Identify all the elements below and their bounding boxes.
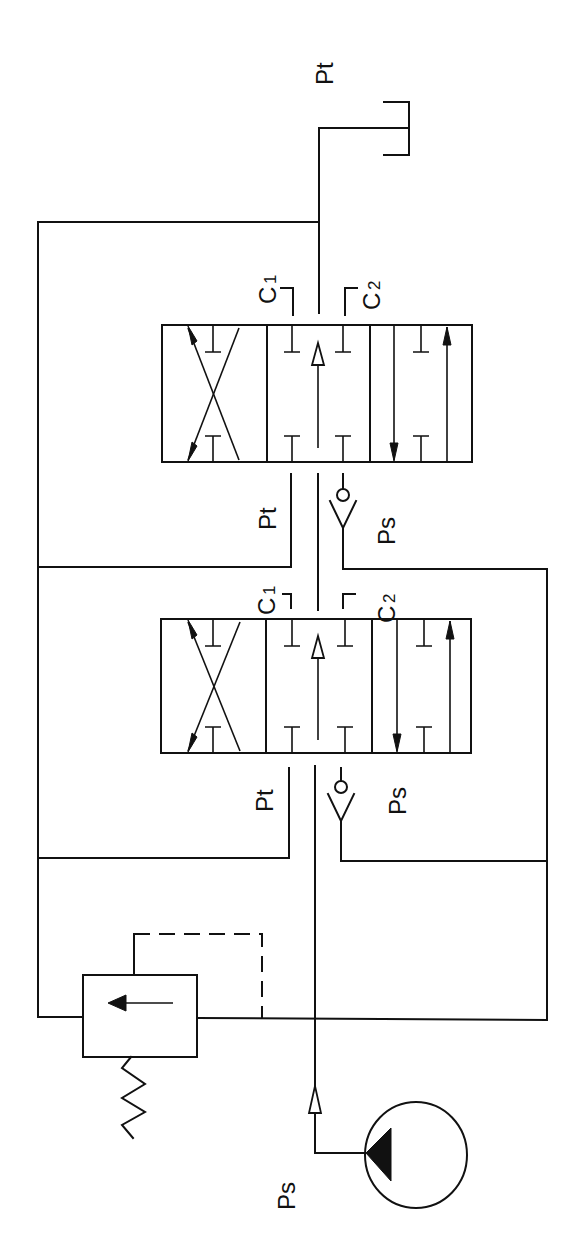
pump-icon xyxy=(365,1102,467,1208)
directional-valve-upper xyxy=(162,325,472,462)
lower-pt-label: Pt xyxy=(251,789,278,812)
spring-icon xyxy=(122,1057,145,1138)
lower-c1-label: C xyxy=(253,598,280,615)
hydraulic-circuit-diagram: Pt C 1 C 2 xyxy=(0,0,581,1240)
lower-c1-subscript: 1 xyxy=(260,586,279,595)
check-valve-upper-icon xyxy=(330,474,356,528)
tank-pressure-label: Pt xyxy=(311,62,338,85)
tank-return-line xyxy=(38,128,409,1017)
upper-pt-label: Pt xyxy=(254,507,281,530)
lower-c2-label: C xyxy=(373,606,400,623)
lower-valve-lines xyxy=(38,766,547,1153)
lower-c2-subscript: 2 xyxy=(380,594,399,603)
pump-ps-label: Ps xyxy=(273,1182,300,1210)
upper-c2-label: C xyxy=(358,293,385,310)
check-valve-lower-icon xyxy=(328,768,354,821)
upper-c1-subscript: 1 xyxy=(261,275,280,284)
upper-c1-label: C xyxy=(254,287,281,304)
upper-c2-subscript: 2 xyxy=(365,281,384,290)
supply-line xyxy=(309,1086,365,1153)
directional-valve-lower xyxy=(161,619,471,753)
lower-ps-label: Ps xyxy=(384,787,411,815)
upper-ps-label: Ps xyxy=(373,517,400,545)
